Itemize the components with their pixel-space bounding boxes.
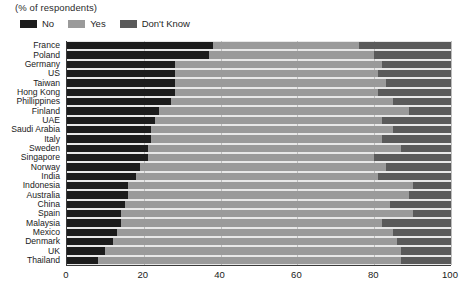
bar-row — [67, 135, 451, 142]
bar-row — [67, 79, 451, 86]
bar-segment — [67, 210, 121, 217]
y-axis-label-spain: Spain — [38, 209, 60, 218]
y-axis-label-uae: UAE — [42, 116, 60, 125]
bar-row — [67, 70, 451, 77]
bar-segment — [105, 247, 401, 254]
bar-segment — [382, 117, 451, 124]
bar-segment — [67, 126, 151, 133]
bar-segment — [378, 173, 451, 180]
bar-segment — [413, 210, 451, 217]
bar-segment — [151, 126, 393, 133]
bar-row — [67, 89, 451, 96]
gridline-100 — [451, 41, 452, 265]
bar-segment — [125, 201, 390, 208]
bar-segment — [113, 238, 397, 245]
y-axis-label-phillippines: Phillippines — [17, 97, 60, 106]
bar-row — [67, 126, 451, 133]
legend-no: No — [20, 19, 54, 29]
plot-area — [66, 41, 451, 265]
bar-segment — [393, 229, 451, 236]
y-axis-label-uk: UK — [48, 247, 60, 256]
y-axis-label-taiwan: Taiwan — [33, 79, 60, 88]
bar-segment — [67, 117, 155, 124]
bar-segment — [386, 163, 451, 170]
bar-row — [67, 257, 451, 264]
bar-row — [67, 98, 451, 105]
bar-row — [67, 247, 451, 254]
bar-segment — [374, 154, 451, 161]
y-axis-label-indonesia: Indonesia — [23, 181, 60, 190]
x-axis-tick-labels: 020406080100 — [0, 267, 467, 283]
bar-segment — [67, 173, 136, 180]
bar-segment — [159, 107, 409, 114]
bar-segment — [136, 173, 378, 180]
bar-segment — [67, 79, 175, 86]
y-axis-label-poland: Poland — [33, 51, 60, 60]
bar-row — [67, 154, 451, 161]
bar-segment — [175, 79, 386, 86]
y-axis-label-france: France — [33, 41, 60, 50]
bar-segment — [359, 42, 451, 49]
bar-segment — [67, 135, 151, 142]
bar-segment — [117, 229, 393, 236]
bar-segment — [382, 61, 451, 68]
bar-row — [67, 191, 451, 198]
bar-row — [67, 173, 451, 180]
bar-segment — [67, 219, 121, 226]
bar-row — [67, 182, 451, 189]
bar-segment — [67, 163, 140, 170]
y-axis-label-germany: Germany — [25, 60, 60, 69]
bar-segment — [67, 238, 113, 245]
bar-row — [67, 238, 451, 245]
bar-segment — [67, 51, 209, 58]
bar-segment — [128, 182, 412, 189]
y-axis-label-malaysia: Malaysia — [26, 219, 60, 228]
bar-segment — [67, 107, 159, 114]
bar-segment — [175, 89, 379, 96]
bar-segment — [401, 145, 451, 152]
bar-segment — [148, 145, 401, 152]
bar-segment — [67, 42, 213, 49]
y-axis-label-finland: Finland — [32, 107, 60, 116]
bar-segment — [155, 117, 382, 124]
bar-segment — [401, 247, 451, 254]
x-tick-20: 20 — [138, 269, 149, 280]
bar-segment — [393, 98, 451, 105]
bar-segment — [378, 89, 451, 96]
bar-row — [67, 229, 451, 236]
bar-row — [67, 210, 451, 217]
bar-row — [67, 42, 451, 49]
y-axis-label-italy: Italy — [44, 135, 60, 144]
bar-segment — [67, 61, 175, 68]
y-axis-label-norway: Norway — [31, 163, 60, 172]
bar-segment — [148, 154, 375, 161]
chart-subtitle: (% of respondents) — [15, 2, 97, 13]
y-axis-label-singapore: Singapore — [21, 153, 60, 162]
bar-segment — [67, 229, 117, 236]
x-tick-60: 60 — [291, 269, 302, 280]
chart-legend: NoYesDon't Know — [20, 19, 190, 29]
bar-segment — [393, 126, 451, 133]
bar-segment — [151, 135, 381, 142]
legend-yes-label: Yes — [90, 19, 106, 29]
bar-row — [67, 145, 451, 152]
bar-row — [67, 201, 451, 208]
y-axis-label-sweden: Sweden — [29, 144, 60, 153]
bar-segment — [67, 247, 105, 254]
bar-segment — [378, 70, 451, 77]
bar-segment — [67, 154, 148, 161]
bar-row — [67, 163, 451, 170]
y-axis-label-thailand: Thailand — [27, 256, 60, 265]
bar-segment — [382, 219, 451, 226]
bar-segment — [390, 201, 451, 208]
x-tick-40: 40 — [214, 269, 225, 280]
bar-segment — [121, 210, 413, 217]
bar-segment — [128, 191, 408, 198]
bar-segment — [397, 238, 451, 245]
bar-segment — [409, 107, 451, 114]
y-axis-label-australia: Australia — [27, 191, 60, 200]
y-axis-label-us: US — [48, 69, 60, 78]
bar-segment — [382, 135, 451, 142]
legend-yes-swatch-icon — [68, 20, 85, 28]
bar-segment — [67, 70, 175, 77]
